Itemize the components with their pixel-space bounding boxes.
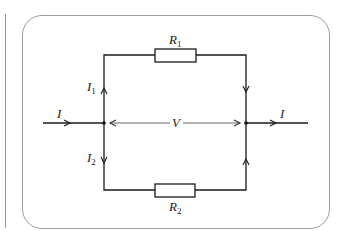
- resistor-r1: [155, 49, 196, 62]
- output-wire: [246, 120, 308, 126]
- parallel-circuit-diagram: I I I1 I2 V R1 R2: [0, 0, 346, 241]
- i1-label: I1: [86, 79, 96, 96]
- r1-label: R1: [168, 32, 181, 49]
- bottom-branch: [101, 123, 249, 197]
- voltage-label: V: [172, 115, 182, 130]
- resistor-r2: [155, 184, 195, 197]
- right-junction-node: [244, 121, 248, 125]
- input-current-label: I: [56, 106, 62, 121]
- left-junction-node: [102, 121, 106, 125]
- input-wire: [43, 120, 104, 126]
- r2-label: R2: [168, 199, 181, 216]
- i2-label: I2: [86, 150, 96, 167]
- top-branch: [101, 49, 249, 123]
- output-current-label: I: [279, 106, 285, 121]
